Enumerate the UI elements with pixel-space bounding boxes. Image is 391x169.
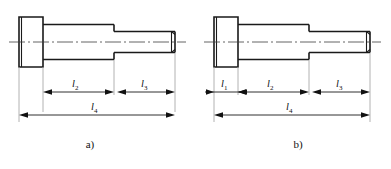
dimension-l4-b: l4 xyxy=(214,101,370,118)
dimension-label-l1-b: l1 xyxy=(221,78,228,92)
dimension-label-l3-a: l3 xyxy=(141,78,148,92)
caption-b: b) xyxy=(293,138,303,151)
dimension-label-l4-a: l4 xyxy=(91,101,98,115)
caption-a: a) xyxy=(86,138,95,151)
diagram-a: l2 l3 l4 a) xyxy=(0,0,196,169)
dimension-l4-a: l4 xyxy=(19,101,175,118)
technical-drawing-figure: l2 l3 l4 a) xyxy=(0,0,391,169)
dimension-label-l2-b: l2 xyxy=(267,78,274,92)
dimension-l3-a: l3 xyxy=(117,78,175,95)
dimension-l2-a: l2 xyxy=(43,78,114,95)
dimension-l3-b: l3 xyxy=(312,78,370,95)
diagram-b: l1 l2 l3 l4 b) xyxy=(195,0,391,169)
dimension-label-l3-b: l3 xyxy=(336,78,343,92)
dimension-l2-b: l2 xyxy=(238,78,309,95)
dimension-label-l4-b: l4 xyxy=(286,101,293,115)
dimension-label-l2-a: l2 xyxy=(72,78,79,92)
